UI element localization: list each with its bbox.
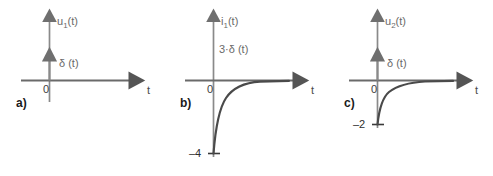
origin-label: 0 (207, 84, 213, 95)
impulse-label: δ (t) (59, 58, 79, 69)
panel-a: u1(t) δ (t) 0 t a) (0, 0, 165, 176)
panel-tag: c) (344, 97, 355, 109)
x-axis-label: t (311, 85, 314, 96)
panel-tag: b) (180, 97, 191, 109)
panel-a-graph (0, 0, 165, 176)
y-value-label-min: –2 (353, 119, 365, 130)
exponential-curve (214, 81, 290, 154)
y-axis-label: u2(t) (385, 16, 406, 30)
x-axis-label: t (475, 85, 478, 96)
panel-c-graph (328, 0, 493, 176)
impulse-label: 3·δ (t) (219, 44, 248, 55)
panel-b: i1(t) 3·δ (t) 0 t –4 b) (164, 0, 329, 176)
signal-diagram-figure: u1(t) δ (t) 0 t a) i1(t) (0, 0, 493, 176)
impulse-label: δ (t) (387, 58, 407, 69)
origin-label: 0 (43, 84, 49, 95)
origin-label: 0 (371, 84, 377, 95)
exponential-curve (378, 81, 454, 125)
y-axis-label: u1(t) (57, 16, 78, 30)
panel-c: u2(t) δ (t) 0 t –2 c) (328, 0, 493, 176)
y-value-label-min: –4 (189, 148, 201, 159)
panel-tag: a) (16, 97, 27, 109)
x-axis-label: t (147, 85, 150, 96)
y-axis-label: i1(t) (221, 16, 238, 30)
